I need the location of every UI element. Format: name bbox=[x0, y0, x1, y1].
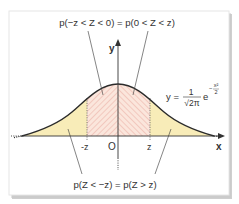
normal-distribution-diagram: y x O -z z p(−z < Z < 0) = p(0 < Z < z) … bbox=[0, 0, 239, 204]
svg-text:1: 1 bbox=[189, 87, 194, 97]
svg-text:√2π: √2π bbox=[184, 98, 199, 108]
neg-z-label: -z bbox=[81, 142, 89, 152]
y-axis-label: y bbox=[109, 43, 115, 54]
top-probability-label: p(−z < Z < 0) = p(0 < Z < z) bbox=[59, 17, 175, 28]
svg-text:2: 2 bbox=[214, 89, 217, 95]
bottom-probability-label: p(Z < −z) = p(Z > z) bbox=[73, 179, 156, 190]
svg-text:x²: x² bbox=[214, 82, 219, 88]
x-axis-label: x bbox=[216, 141, 222, 152]
svg-text:y =: y = bbox=[166, 91, 179, 102]
origin-label: O bbox=[108, 141, 116, 152]
svg-text:−: − bbox=[209, 85, 213, 91]
pos-z-label: z bbox=[147, 142, 152, 152]
svg-text:e: e bbox=[203, 91, 208, 102]
